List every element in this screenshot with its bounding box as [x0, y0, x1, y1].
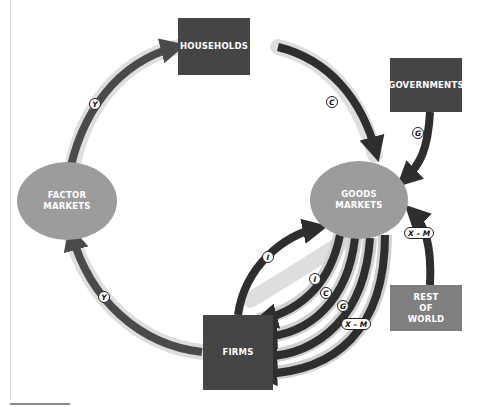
households-node: HOUSEHOLDS	[178, 18, 250, 75]
firms-node: FIRMS	[203, 315, 273, 390]
flow-row-to-goods	[412, 212, 430, 285]
flow-label-i-inner: I	[309, 273, 321, 285]
flow-label-g-governments: G	[412, 127, 424, 139]
flow-label-y-bottom: Y	[98, 291, 110, 303]
goods-markets-node: GOODS MARKETS	[310, 161, 408, 239]
flow-label-c-inner: C	[320, 287, 332, 299]
governments-node: GOVERNMENTS	[390, 58, 462, 112]
flow-label-c-households: C	[326, 96, 338, 108]
flow-label-xm-inner: X – M	[341, 318, 371, 330]
rest-of-world-node: REST OF WORLD	[390, 285, 462, 331]
circular-flow-diagram: HOUSEHOLDS GOVERNMENTS FACTOR MARKETS GO…	[0, 0, 477, 407]
flow-label-y-top: Y	[89, 98, 101, 110]
flow-label-i-outer: I	[262, 251, 274, 263]
factor-markets-node: FACTOR MARKETS	[17, 162, 117, 240]
flow-label-g-inner: G	[337, 300, 349, 312]
flow-governments-to-goods	[404, 112, 430, 180]
flow-label-xm-row: X – M	[404, 227, 434, 239]
